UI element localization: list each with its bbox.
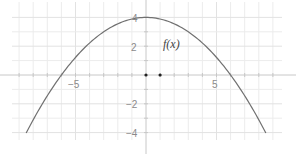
y-tick-label-neg2: −2 [126,99,138,110]
x-tick-label-5: 5 [212,79,218,90]
x-tick-label-neg5: −5 [68,79,80,90]
y-tick-label-2: 2 [131,42,137,53]
function-label: f(x) [163,37,180,51]
point-marker [144,73,147,76]
axes [0,0,296,154]
grid-lines [12,2,282,140]
function-plot: −5 5 4 2 −2 −4 f(x) [0,0,296,154]
point-marker [159,73,162,76]
y-tick-label-neg4: −4 [126,128,138,139]
y-tick-label-4: 4 [132,13,138,24]
